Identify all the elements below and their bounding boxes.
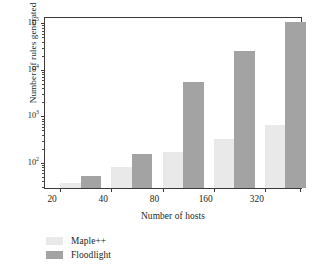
x-axis-tick-label: 40 (99, 194, 108, 204)
x-axis-tick-mark (60, 188, 61, 192)
y-axis-minor-tick (42, 135, 45, 136)
y-axis-minor-tick (42, 124, 45, 125)
bar-floodlight-40 (132, 154, 153, 188)
legend-item-floodlight: Floodlight (46, 248, 111, 262)
y-axis-minor-tick (42, 181, 45, 182)
y-axis-minor-tick (42, 56, 45, 57)
bar-floodlight-160 (234, 51, 255, 188)
y-axis-tick-label: 103 (28, 112, 39, 120)
y-axis-minor-tick (42, 102, 45, 103)
y-axis-minor-tick (42, 127, 45, 128)
y-axis-tick-mark (41, 23, 46, 24)
y-axis-minor-tick (42, 94, 45, 95)
bar-floodlight-80 (183, 82, 204, 188)
y-axis-minor-tick (42, 88, 45, 89)
legend-label-floodlight: Floodlight (71, 250, 111, 260)
bar-maple-40 (111, 167, 132, 188)
y-axis-minor-tick (42, 28, 45, 29)
y-axis-tick-label: 102 (28, 159, 39, 167)
y-axis-minor-tick (42, 177, 45, 178)
legend-item-maple: Maple++ (46, 234, 111, 248)
bar-maple-320 (265, 125, 286, 188)
y-axis-tick-mark (41, 163, 46, 164)
y-axis-tick-mark (41, 70, 46, 71)
x-axis-tick-mark (214, 188, 215, 192)
y-axis-minor-tick (42, 31, 45, 32)
x-axis-tick-label: 20 (47, 194, 56, 204)
x-axis-tick-label: 320 (250, 194, 264, 204)
bar-maple-160 (214, 139, 235, 188)
y-axis-minor-tick (42, 72, 45, 73)
plot-area: 102103104105204080160320 (44, 17, 302, 189)
y-axis-minor-tick (42, 84, 45, 85)
bar-maple-80 (163, 152, 184, 188)
y-axis-minor-tick (42, 25, 45, 26)
legend-swatch-icon-floodlight (46, 251, 63, 259)
y-axis-minor-tick (42, 37, 45, 38)
y-axis-minor-tick (42, 130, 45, 131)
x-axis-tick-label: 160 (199, 194, 213, 204)
bar-floodlight-320 (285, 22, 306, 188)
y-axis-tick-mark (41, 116, 46, 117)
x-axis-tick-label: 80 (150, 194, 159, 204)
x-axis-tick-mark (163, 188, 164, 192)
legend-swatch-icon-maple (46, 237, 63, 245)
y-axis-minor-tick (42, 149, 45, 150)
y-axis-minor-tick (42, 34, 45, 35)
y-axis-minor-tick (42, 74, 45, 75)
y-axis-minor-tick (42, 77, 45, 78)
chart-legend: Maple++ Floodlight (46, 234, 111, 262)
x-axis-label: Number of hosts (44, 211, 302, 221)
y-axis-minor-tick (42, 119, 45, 120)
x-axis-tick-mark (111, 188, 112, 192)
y-axis-minor-tick (42, 167, 45, 168)
y-axis-tick-label: 104 (28, 66, 39, 74)
x-axis-tick-mark (300, 188, 301, 192)
bars-layer (45, 18, 301, 188)
y-axis-minor-tick (42, 170, 45, 171)
bar-maple-20 (60, 183, 81, 188)
y-axis-minor-tick (42, 165, 45, 166)
y-axis-tick-label: 105 (28, 19, 39, 27)
y-axis-minor-tick (42, 141, 45, 142)
y-axis-minor-tick (42, 48, 45, 49)
legend-label-maple: Maple++ (71, 236, 106, 246)
y-axis-minor-tick (42, 121, 45, 122)
chart-figure: Number of rules generated 10210310410520… (0, 0, 316, 267)
y-axis-minor-tick (42, 173, 45, 174)
y-axis-minor-tick (42, 42, 45, 43)
y-axis-minor-tick (42, 80, 45, 81)
y-axis-minor-tick (42, 187, 45, 188)
bar-floodlight-20 (81, 176, 102, 188)
x-axis-tick-mark (265, 188, 266, 192)
